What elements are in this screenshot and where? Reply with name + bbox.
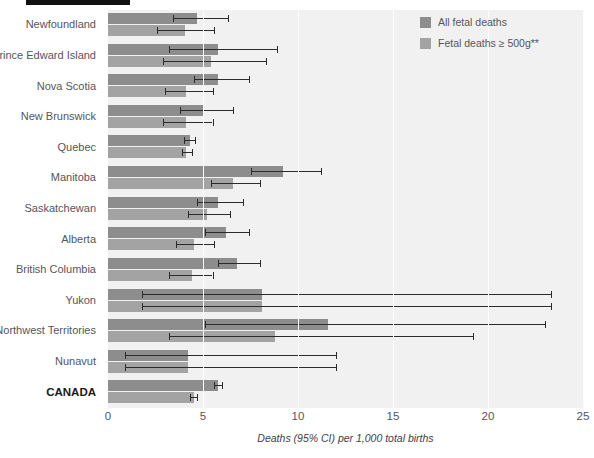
confidence-interval-line (169, 49, 277, 50)
bar-group (108, 105, 583, 130)
bar-group (108, 319, 583, 344)
legend: All fetal deathsFetal deaths ≥ 500g** (420, 16, 539, 58)
confidence-interval-line (214, 385, 222, 386)
ci-cap-lower (205, 229, 206, 236)
x-tick-15: 15 (387, 410, 400, 422)
bar-group (108, 350, 583, 375)
x-axis-label: Deaths (95% CI) per 1,000 total births (108, 432, 583, 444)
ci-cap-lower (211, 180, 212, 187)
confidence-interval-line (169, 275, 213, 276)
ci-cap-upper (213, 88, 214, 95)
confidence-interval-line (188, 214, 230, 215)
ci-cap-upper (551, 291, 552, 298)
ci-cap-upper (213, 272, 214, 279)
category-label-british-columbia: British Columbia (16, 263, 96, 275)
ci-cap-lower (180, 107, 181, 114)
ci-cap-lower (197, 199, 198, 206)
ci-cap-lower (218, 260, 219, 267)
confidence-interval-line (184, 140, 195, 141)
category-label-yukon: Yukon (65, 294, 96, 306)
plot-area (108, 10, 583, 408)
ci-cap-lower (173, 15, 174, 22)
category-label-northwest-territories: Northwest Territories (0, 324, 96, 336)
ci-cap-lower (182, 149, 183, 156)
confidence-interval-line (165, 91, 213, 92)
category-label-alberta: Alberta (61, 233, 96, 245)
x-tick-25: 25 (577, 410, 590, 422)
confidence-interval-line (182, 152, 192, 153)
confidence-interval-line (197, 202, 243, 203)
category-axis: NewfoundlandPrince Edward IslandNova Sco… (0, 10, 102, 408)
ci-cap-upper (243, 199, 244, 206)
ci-cap-upper (195, 137, 196, 144)
ci-cap-upper (249, 229, 250, 236)
ci-cap-upper (260, 260, 261, 267)
ci-cap-upper (277, 46, 278, 53)
bar-all-fetal-deaths (108, 380, 218, 391)
gridline-20 (488, 10, 489, 408)
category-label-saskatchewan: Saskatchewan (24, 202, 96, 214)
legend-label: Fetal deaths ≥ 500g** (438, 37, 539, 49)
x-axis-ticks: 0510152025 (108, 410, 583, 428)
ci-cap-lower (169, 272, 170, 279)
ci-cap-upper (222, 382, 223, 389)
ci-cap-upper (473, 333, 474, 340)
ci-cap-lower (142, 303, 143, 310)
confidence-interval-line (251, 171, 321, 172)
confidence-interval-line (125, 355, 336, 356)
bar-group (108, 166, 583, 191)
confidence-interval-line (205, 324, 545, 325)
gridline-25 (583, 10, 584, 408)
bar-fetal-deaths-500g (108, 147, 186, 158)
x-tick-0: 0 (105, 410, 111, 422)
confidence-interval-line (194, 79, 249, 80)
confidence-interval-line (180, 110, 233, 111)
ci-cap-lower (125, 352, 126, 359)
x-tick-20: 20 (482, 410, 495, 422)
bar-group (108, 135, 583, 160)
confidence-interval-line (176, 244, 214, 245)
confidence-interval-line (173, 18, 228, 19)
bar-rows (108, 10, 583, 408)
ci-cap-upper (228, 15, 229, 22)
ci-cap-lower (163, 119, 164, 126)
ci-cap-lower (194, 76, 195, 83)
ci-cap-lower (176, 241, 177, 248)
category-label-new-brunswick: New Brunswick (21, 110, 96, 122)
legend-swatch-icon (420, 17, 431, 28)
ci-cap-upper (266, 58, 267, 65)
ci-cap-upper (336, 364, 337, 371)
legend-label: All fetal deaths (438, 16, 507, 28)
x-tick-10: 10 (292, 410, 305, 422)
ci-cap-lower (157, 27, 158, 34)
confidence-interval-line (169, 336, 473, 337)
bar-group (108, 380, 583, 405)
category-label-quebec: Quebec (57, 141, 96, 153)
bar-group (108, 227, 583, 252)
category-label-prince-edward-island: Prince Edward Island (0, 49, 96, 61)
bar-group (108, 197, 583, 222)
legend-swatch-icon (420, 38, 431, 49)
confidence-interval-line (205, 232, 249, 233)
ci-cap-lower (251, 168, 252, 175)
ci-cap-upper (249, 76, 250, 83)
ci-cap-upper (545, 321, 546, 328)
legend-item-all: All fetal deaths (420, 16, 539, 28)
ci-cap-lower (142, 291, 143, 298)
ci-cap-lower (163, 58, 164, 65)
confidence-interval-line (157, 30, 214, 31)
ci-cap-upper (551, 303, 552, 310)
bar-all-fetal-deaths (108, 135, 190, 146)
ci-cap-upper (192, 149, 193, 156)
bar-fetal-deaths-500g (108, 392, 194, 403)
gridline-5 (203, 10, 204, 408)
category-label-nova-scotia: Nova Scotia (37, 80, 96, 92)
ci-cap-lower (184, 137, 185, 144)
chart-figure: NewfoundlandPrince Edward IslandNova Sco… (0, 0, 594, 458)
ci-cap-lower (165, 88, 166, 95)
bar-group (108, 74, 583, 99)
category-label-manitoba: Manitoba (51, 171, 96, 183)
confidence-interval-line (211, 183, 260, 184)
ci-cap-lower (205, 321, 206, 328)
ci-cap-upper (321, 168, 322, 175)
